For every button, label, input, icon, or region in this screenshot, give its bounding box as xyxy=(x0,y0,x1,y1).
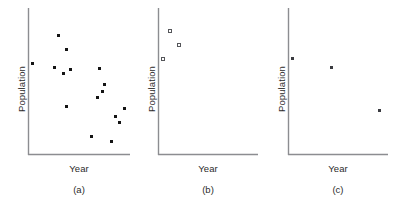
data-point xyxy=(378,109,381,112)
panel-c-points xyxy=(0,0,393,202)
data-point xyxy=(330,66,333,69)
figure-scatter-panels: Population Year (a) Populat xyxy=(0,0,393,202)
panel-c: Population Year (c) xyxy=(0,0,393,202)
data-point xyxy=(291,57,294,60)
